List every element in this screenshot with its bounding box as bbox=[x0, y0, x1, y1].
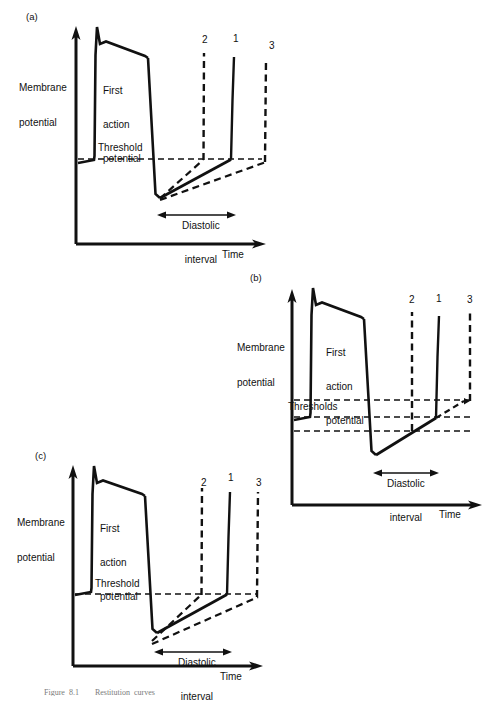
fap-line2: action bbox=[100, 557, 138, 568]
panel-a-diastolic-arrow-right bbox=[227, 212, 236, 219]
figure-caption: Figure 8.1 Restitution curves bbox=[44, 688, 374, 696]
panel-b-thresholds-label: Thresholds bbox=[288, 401, 337, 412]
panel-c-trace-number-1: 1 bbox=[228, 472, 234, 483]
panel-a-diastolic-arrow-left bbox=[157, 212, 166, 219]
y-axis-label-line1: Membrane bbox=[19, 82, 67, 94]
panel-b-first-action-potential-label: First action potential bbox=[326, 325, 364, 448]
panel-b-diastolic-arrow-right bbox=[430, 470, 439, 477]
panel-c-y-axis-label: Membrane potential bbox=[17, 494, 65, 586]
panel-c-trace-number-3: 3 bbox=[256, 477, 262, 488]
diastolic-line1: Diastolic bbox=[182, 220, 220, 231]
panel-a: (a) Membrane potential First action pote… bbox=[0, 0, 280, 270]
panel-c-recovery-limb-solid bbox=[157, 595, 227, 634]
diastolic-line2: interval bbox=[182, 254, 220, 265]
panel-a-y-axis-label: Membrane potential bbox=[19, 59, 67, 151]
diastolic-line1: Diastolic bbox=[387, 478, 425, 489]
fap-line3: potential bbox=[326, 415, 364, 426]
panel-a-trace-number-2: 2 bbox=[202, 34, 208, 45]
y-axis-label-line1: Membrane bbox=[17, 517, 65, 529]
y-axis-label-line2: potential bbox=[19, 117, 67, 129]
panel-b-recovery-limb-response-3 bbox=[436, 401, 464, 418]
panel-c-x-axis-label: Time bbox=[220, 671, 242, 682]
fap-line3: potential bbox=[100, 591, 138, 602]
panel-b-response-1-upstroke bbox=[436, 316, 439, 418]
y-axis-label-line2: potential bbox=[17, 552, 65, 564]
panel-c-repolarization-trace bbox=[145, 496, 157, 633]
diastolic-line2: interval bbox=[387, 512, 425, 523]
panel-a-x-axis-label: Time bbox=[222, 249, 244, 260]
panel-a-response-2-upstroke bbox=[204, 53, 205, 160]
panel-b-y-axis-label: Membrane potential bbox=[237, 319, 285, 411]
panel-a-diastolic-interval-label: Diastolic interval bbox=[182, 198, 220, 288]
panel-a-response-3-upstroke bbox=[265, 60, 266, 162]
panel-a-first-action-potential-label: First action potential bbox=[103, 63, 141, 186]
panel-c-diastolic-arrow-right bbox=[223, 649, 232, 656]
panel-a-threshold-label: Threshold bbox=[98, 142, 142, 153]
panel-a-trace-number-1: 1 bbox=[233, 33, 239, 44]
panel-c-diastolic-arrow-left bbox=[154, 649, 163, 656]
panel-c: (c) Membrane potential First action pote… bbox=[0, 432, 290, 696]
panel-b-trace-number-3: 3 bbox=[467, 294, 473, 305]
fap-line2: action bbox=[326, 381, 364, 392]
fap-line2: action bbox=[103, 119, 141, 130]
diastolic-line1: Diastolic bbox=[178, 657, 216, 668]
panel-b-repolarization-trace bbox=[364, 319, 376, 455]
panel-c-first-action-potential-label: First action potential bbox=[100, 501, 138, 624]
fap-line1: First bbox=[103, 85, 141, 96]
panel-b-recovery-limb-solid bbox=[376, 418, 436, 455]
panel-c-response-3-upstroke bbox=[257, 492, 258, 597]
panel-b-diastolic-arrow-left bbox=[373, 470, 382, 477]
panel-c-tag: (c) bbox=[35, 451, 46, 462]
panel-c-trace-number-2: 2 bbox=[201, 477, 207, 488]
panel-b-trace-number-2: 2 bbox=[409, 294, 415, 305]
y-axis-label-line1: Membrane bbox=[237, 342, 285, 354]
fap-line1: First bbox=[326, 347, 364, 358]
panel-a-repolarization-trace bbox=[148, 58, 160, 198]
panel-a-trace-number-3: 3 bbox=[269, 40, 275, 51]
panel-b-trace-number-1: 1 bbox=[436, 293, 442, 304]
y-axis-label-line2: potential bbox=[237, 377, 285, 389]
panel-b-tag: (b) bbox=[250, 273, 262, 284]
panel-c-response-2-upstroke bbox=[202, 488, 203, 595]
panel-a-tag: (a) bbox=[26, 12, 38, 23]
fap-line1: First bbox=[100, 523, 138, 534]
fap-line3: potential bbox=[103, 153, 141, 164]
panel-c-response-1-upstroke bbox=[227, 492, 230, 595]
panel-b-diastolic-interval-label: Diastolic interval bbox=[387, 456, 425, 546]
panel-b-x-axis-label: Time bbox=[439, 509, 461, 520]
panel-a-response-1-upstroke bbox=[231, 57, 234, 160]
panel-c-threshold-label: Threshold bbox=[95, 578, 139, 589]
